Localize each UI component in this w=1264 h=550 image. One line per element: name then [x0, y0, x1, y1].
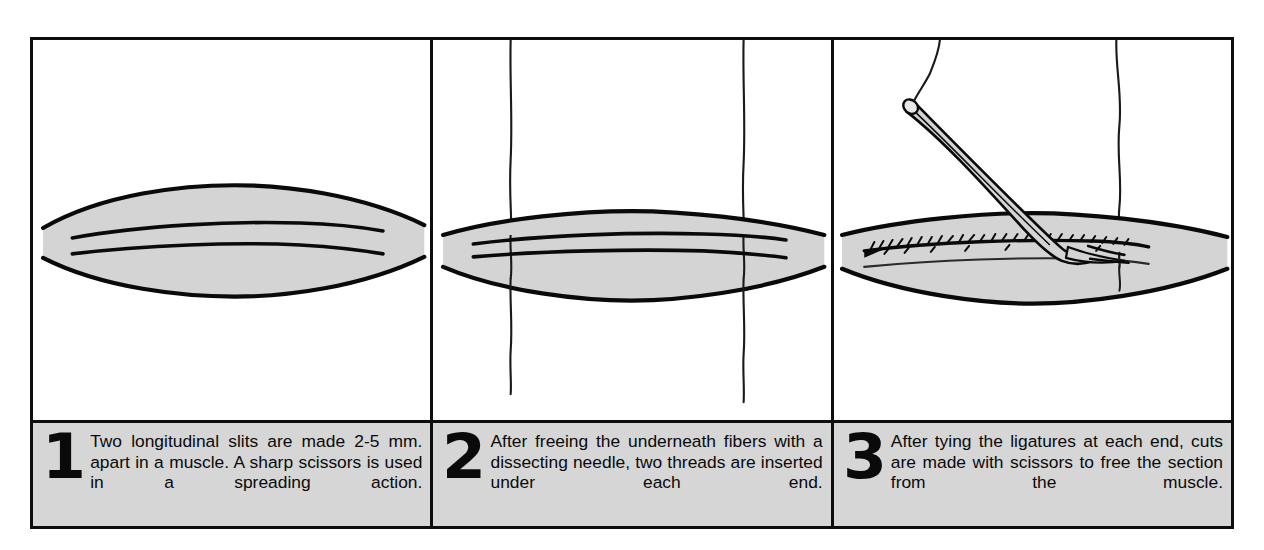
thread-right-under-muscle — [744, 235, 745, 279]
thread-left-lower — [511, 279, 512, 394]
illustration-1 — [33, 40, 430, 420]
thread-right-upper — [743, 40, 744, 235]
thread-left-ligature-upper — [914, 40, 939, 100]
caption-text-2: After freeing the underneath fibers with… — [490, 430, 824, 514]
step-number-2: 2 — [442, 428, 491, 486]
figure-frame: 1 Two longitudinal slits are made 2-5 mm… — [30, 37, 1234, 529]
thread-right-tail — [1119, 267, 1120, 291]
step-number-1: 1 — [42, 428, 91, 486]
panel-2: 2 After freeing the underneath fibers wi… — [430, 40, 830, 526]
illustration-3 — [834, 40, 1231, 420]
caption-2: 2 After freeing the underneath fibers wi… — [433, 420, 830, 526]
panel-1: 1 Two longitudinal slits are made 2-5 mm… — [33, 40, 430, 526]
panel-3: 3 After tying the ligatures at each end,… — [831, 40, 1231, 526]
caption-text-1: Two longitudinal slits are made 2-5 mm. … — [90, 430, 424, 514]
muscle-strip-cut-with-scissors-drawing — [834, 40, 1231, 420]
caption-text-3: After tying the ligatures at each end, c… — [891, 430, 1225, 514]
caption-3: 3 After tying the ligatures at each end,… — [834, 420, 1231, 526]
muscle-with-two-longitudinal-slits-drawing — [33, 40, 430, 420]
step-number-3: 3 — [843, 428, 892, 486]
illustration-2 — [433, 40, 830, 420]
thread-left-upper — [510, 40, 511, 235]
muscle-with-two-threads-inserted-drawing — [433, 40, 830, 420]
caption-1: 1 Two longitudinal slits are made 2-5 mm… — [33, 420, 430, 526]
thread-right-lower — [744, 279, 745, 402]
